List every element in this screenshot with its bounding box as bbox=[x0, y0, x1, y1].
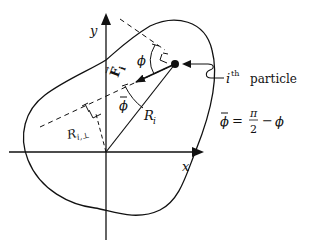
svg-text:ϕ: ϕ bbox=[275, 114, 284, 129]
svg-text:π: π bbox=[249, 107, 258, 120]
y-axis-arrowhead bbox=[101, 13, 111, 25]
position-vector-label: R i bbox=[143, 108, 156, 126]
perpendicular-distance-label: R i,⊥ bbox=[65, 124, 90, 144]
phi-arc-tick-2 bbox=[163, 53, 168, 54]
x-axis-label: x bbox=[182, 159, 190, 174]
svg-text:i: i bbox=[153, 116, 156, 126]
svg-text:i: i bbox=[226, 71, 230, 86]
svg-text:ϕ: ϕ bbox=[119, 98, 128, 113]
rigid-body-outline bbox=[23, 20, 214, 215]
rigid-body-diagram: y x F i → ϕ ϕ R i R i,⊥ i th particle ϕ … bbox=[0, 0, 309, 241]
svg-text:i,⊥: i,⊥ bbox=[76, 131, 90, 142]
leader-arrowhead bbox=[182, 60, 191, 68]
svg-text:−: − bbox=[262, 113, 273, 128]
svg-text:2: 2 bbox=[250, 123, 257, 136]
phi-angle-arc bbox=[150, 45, 155, 74]
svg-text:particle: particle bbox=[250, 72, 297, 86]
phi-bar-tick bbox=[122, 84, 128, 86]
phi-bar-equation: ϕ = π 2 − ϕ bbox=[220, 107, 284, 136]
particle-annotation: i th particle bbox=[226, 69, 297, 86]
force-label: F i → bbox=[101, 60, 128, 80]
svg-text:=: = bbox=[232, 113, 243, 128]
particle-dot bbox=[171, 60, 179, 68]
perpendicular-dashed-line bbox=[96, 114, 106, 152]
x-axis-arrowhead bbox=[192, 147, 204, 157]
svg-text:ϕ: ϕ bbox=[220, 114, 229, 129]
phi-label: ϕ bbox=[137, 53, 146, 68]
y-axis-label: y bbox=[89, 23, 98, 38]
small-angle-marker bbox=[160, 54, 167, 63]
svg-text:th: th bbox=[231, 69, 239, 78]
phi-bar-label: ϕ bbox=[119, 97, 128, 113]
perp-tick-1 bbox=[85, 104, 89, 112]
particle-annotation-leader bbox=[186, 64, 224, 78]
right-angle-marker bbox=[89, 110, 101, 118]
